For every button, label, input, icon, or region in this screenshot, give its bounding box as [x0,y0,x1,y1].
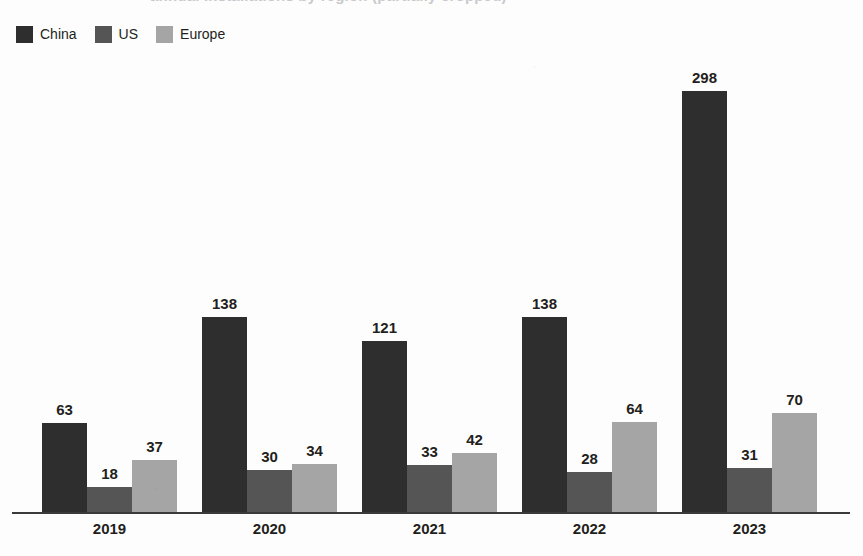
bar-group-bars: 1383034 [202,317,337,512]
bar-value-label: 42 [466,432,483,447]
x-axis-tick-label-2019: 2019 [42,520,177,537]
bar-value-label: 31 [741,447,758,462]
bar-group-bars: 2983170 [682,91,817,512]
bar-rect [772,413,817,512]
bar-value-label: 138 [532,296,557,311]
bar-rect [522,317,567,512]
bar-value-label: 18 [101,466,118,481]
bar-rect [42,423,87,512]
x-axis-tick-label-2020: 2020 [202,520,337,537]
bar-group-bars: 1382864 [522,317,657,512]
bar-europe-2020[interactable]: 34 [292,464,337,512]
bar-rect [362,341,407,512]
bar-value-label: 34 [306,443,323,458]
bar-china-2021[interactable]: 121 [362,341,407,512]
bar-europe-2021[interactable]: 42 [452,453,497,512]
bar-china-2023[interactable]: 298 [682,91,727,512]
bar-value-label: 121 [372,320,397,335]
bar-group-2020: 13830342020 [202,42,337,512]
bar-us-2020[interactable]: 30 [247,470,292,512]
bar-value-label: 33 [421,444,438,459]
bar-group-2023: 29831702023 [682,42,817,512]
bar-value-label: 70 [786,392,803,407]
bar-group-bars: 1213342 [362,341,497,512]
bar-value-label: 63 [56,402,73,417]
x-axis-tick-label-2021: 2021 [362,520,497,537]
bar-china-2019[interactable]: 63 [42,423,87,512]
bar-china-2020[interactable]: 138 [202,317,247,512]
bar-rect [452,453,497,512]
x-axis-line [12,512,850,514]
x-axis-tick-label-2023: 2023 [682,520,817,537]
bar-value-label: 37 [146,439,163,454]
bar-value-label: 64 [626,401,643,416]
bar-us-2022[interactable]: 28 [567,472,612,512]
bar-group-bars: 631837 [42,423,177,512]
bar-value-label: 298 [692,70,717,85]
bar-rect [612,422,657,512]
bar-rect [247,470,292,512]
bar-china-2022[interactable]: 138 [522,317,567,512]
bar-us-2023[interactable]: 31 [727,468,772,512]
grouped-bar-chart: 6318372019138303420201213342202113828642… [0,0,863,556]
bar-us-2021[interactable]: 33 [407,465,452,512]
bar-rect [87,487,132,512]
bar-value-label: 30 [261,449,278,464]
bar-value-label: 28 [581,451,598,466]
x-axis-tick-label-2022: 2022 [522,520,657,537]
bar-rect [727,468,772,512]
bar-us-2019[interactable]: 18 [87,487,132,512]
bar-rect [682,91,727,512]
bar-rect [567,472,612,512]
bar-rect [202,317,247,512]
bar-group-2019: 6318372019 [42,42,177,512]
bar-rect [132,460,177,512]
bar-europe-2023[interactable]: 70 [772,413,817,512]
bar-group-2022: 13828642022 [522,42,657,512]
bar-rect [292,464,337,512]
bar-group-2021: 12133422021 [362,42,497,512]
bar-value-label: 138 [212,296,237,311]
bar-europe-2022[interactable]: 64 [612,422,657,512]
bar-europe-2019[interactable]: 37 [132,460,177,512]
bar-rect [407,465,452,512]
